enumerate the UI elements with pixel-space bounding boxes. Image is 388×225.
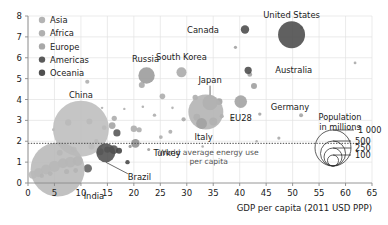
country-label-italy: Italy <box>195 132 213 142</box>
legend-marker-africa[interactable] <box>39 30 45 36</box>
country-label-japan: Japan <box>197 75 221 85</box>
legend-label-europe: Europe <box>50 42 79 52</box>
data-bubble[interactable] <box>251 83 257 89</box>
legend-marker-europe[interactable] <box>39 43 45 49</box>
data-bubble[interactable] <box>171 107 174 110</box>
x-tick-label: 20 <box>128 188 139 198</box>
data-bubble[interactable] <box>234 46 237 49</box>
country-label-china: China <box>69 90 93 100</box>
legend-label-americas: Americas <box>50 55 89 65</box>
legend-marker-americas[interactable] <box>39 56 45 62</box>
population-legend-value: 100 <box>355 150 371 160</box>
country-label-turkey: Turkey <box>152 148 180 158</box>
data-bubble[interactable] <box>159 135 163 139</box>
y-tick-label: 4 <box>17 95 22 105</box>
data-bubble[interactable] <box>113 129 120 136</box>
data-bubble-italy[interactable] <box>196 118 207 129</box>
population-legend-circle <box>324 148 342 166</box>
leader-line-brazil <box>106 162 128 174</box>
data-bubble[interactable] <box>123 108 125 110</box>
y-tick-label: 0 <box>17 178 22 188</box>
x-tick-label: 55 <box>314 188 325 198</box>
country-label-germany: Germany <box>271 102 310 112</box>
data-bubble[interactable] <box>84 164 92 172</box>
x-tick-label: 30 <box>181 188 192 198</box>
y-tick-label: 7 <box>17 32 22 42</box>
data-bubble[interactable] <box>299 113 303 117</box>
x-tick-label: 5 <box>52 188 57 198</box>
x-tick-label: 35 <box>208 188 219 198</box>
x-tick-label: 0 <box>25 188 30 198</box>
x-tick-label: 25 <box>155 188 166 198</box>
data-bubble[interactable] <box>137 127 142 132</box>
data-bubble-united-states[interactable] <box>278 21 305 48</box>
y-tick-label: 5 <box>17 74 22 84</box>
data-bubble[interactable] <box>85 80 89 84</box>
y-tick-label: 8 <box>17 11 22 21</box>
country-label-brazil: Brazil <box>128 172 151 182</box>
y-tick-label: 3 <box>17 115 22 125</box>
country-label-canada: Canada <box>187 25 219 35</box>
data-bubble-canada[interactable] <box>241 25 249 33</box>
x-axis-title: GDP per capita (2011 USD PPP) <box>237 203 372 213</box>
x-tick-label: 40 <box>234 188 245 198</box>
x-tick-label: 45 <box>261 188 272 198</box>
country-label-south-korea: South Korea <box>156 52 207 62</box>
bubble-chart-figure: World average energy useper capitaUnited… <box>0 0 388 225</box>
country-label-eu28: EU28 <box>230 113 252 123</box>
data-bubble[interactable] <box>354 62 357 65</box>
y-tick-label: 6 <box>17 53 22 63</box>
data-bubble[interactable] <box>142 106 145 109</box>
data-bubble[interactable] <box>125 160 129 164</box>
data-bubble-australia[interactable] <box>245 67 252 74</box>
data-bubble-brazil[interactable] <box>96 143 115 162</box>
data-bubble[interactable] <box>112 116 117 121</box>
x-tick-label: 65 <box>367 188 378 198</box>
data-bubble-germany[interactable] <box>234 95 247 108</box>
energy-vs-gdp-bubble-chart: World average energy useper capitaUnited… <box>0 0 388 225</box>
x-tick-label: 10 <box>76 188 87 198</box>
country-label-united-states: United States <box>263 10 320 20</box>
legend-label-asia: Asia <box>50 15 68 25</box>
country-label-australia: Australia <box>275 65 312 75</box>
data-bubble-russia[interactable] <box>138 67 154 83</box>
data-bubble[interactable] <box>181 117 185 121</box>
legend-marker-asia[interactable] <box>39 17 45 23</box>
country-label-russia: Russia <box>132 54 159 64</box>
population-legend-circle <box>328 155 339 166</box>
data-bubble[interactable] <box>255 140 257 142</box>
legend-marker-oceania[interactable] <box>39 70 45 76</box>
data-bubble-south-korea[interactable] <box>176 67 186 77</box>
data-bubble[interactable] <box>101 107 103 109</box>
world-average-label-line2: per capita <box>189 157 227 166</box>
data-bubble[interactable] <box>168 130 172 134</box>
legend-label-africa: Africa <box>50 28 74 38</box>
data-bubble[interactable] <box>147 148 150 151</box>
y-tick-label: 1 <box>17 157 22 167</box>
population-legend-title-line1: Population <box>318 112 361 122</box>
data-bubble[interactable] <box>129 145 132 148</box>
population-legend-title-line2: in millions <box>319 122 361 132</box>
data-bubble[interactable] <box>258 112 261 115</box>
x-tick-label: 50 <box>287 188 298 198</box>
x-tick-label: 15 <box>102 188 113 198</box>
legend-label-oceania: Oceania <box>50 68 84 78</box>
data-bubble[interactable] <box>277 137 280 140</box>
x-tick-label: 60 <box>340 188 351 198</box>
population-legend-value: 1 000 <box>358 125 381 135</box>
y-tick-label: 2 <box>17 136 22 146</box>
data-bubble[interactable] <box>131 126 137 132</box>
data-bubble[interactable] <box>109 122 116 129</box>
data-bubble[interactable] <box>153 113 156 116</box>
data-bubble[interactable] <box>160 94 166 100</box>
